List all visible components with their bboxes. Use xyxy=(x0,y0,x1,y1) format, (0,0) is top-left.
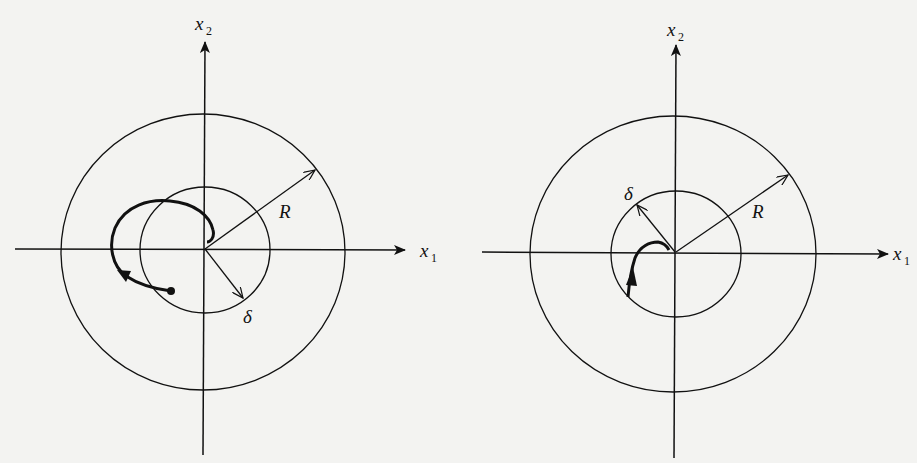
left-R-label: R xyxy=(278,201,291,222)
right-x1-subscript: 1 xyxy=(904,254,910,268)
stability-figure: R δ x 1 x 2 R δ x 1 x 2 xyxy=(0,0,917,463)
left-x-axis xyxy=(15,249,405,250)
left-x2-label: x xyxy=(194,13,204,34)
right-delta-label: δ xyxy=(624,183,634,204)
right-panel: R δ x 1 x 2 xyxy=(482,19,910,458)
left-x1-subscript: 1 xyxy=(431,251,437,265)
left-delta-radius-arrow xyxy=(205,249,243,298)
figure-svg: R δ x 1 x 2 R δ x 1 x 2 xyxy=(0,0,917,463)
right-R-label: R xyxy=(751,201,764,222)
left-x2-subscript: 2 xyxy=(206,24,212,38)
left-trajectory-start-dot xyxy=(167,287,175,295)
right-x1-label: x xyxy=(892,243,902,264)
right-x-axis xyxy=(482,252,888,254)
right-x2-subscript: 2 xyxy=(678,30,684,44)
right-x2-label: x xyxy=(666,19,676,40)
right-inner-circle-delta xyxy=(611,191,741,317)
right-trajectory xyxy=(628,242,669,297)
left-R-radius-arrow xyxy=(205,170,315,249)
left-x1-label: x xyxy=(419,240,429,261)
left-delta-label: δ xyxy=(243,306,253,327)
left-panel: R δ x 1 x 2 xyxy=(15,13,437,455)
right-R-radius-arrow xyxy=(676,175,788,252)
right-delta-radius-arrow xyxy=(637,205,675,252)
left-trajectory-arrow xyxy=(117,270,131,282)
